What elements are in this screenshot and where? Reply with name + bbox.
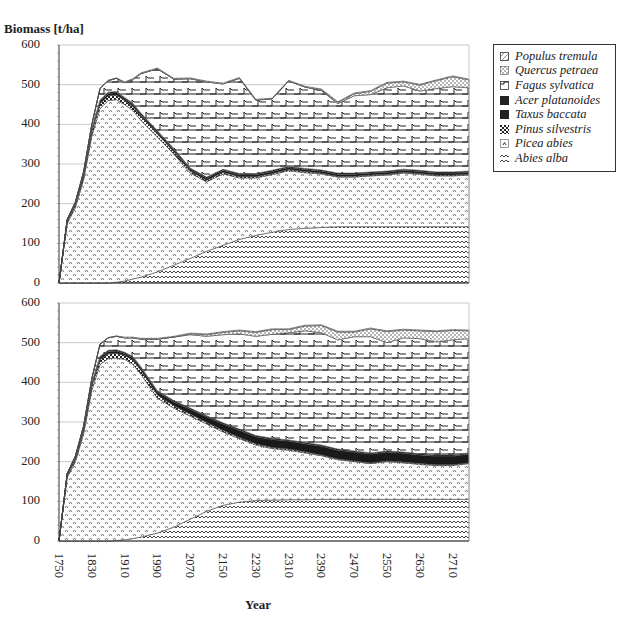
legend: Populus tremula Quercus petraea Fagus sy…: [493, 44, 616, 172]
x-tick-label: 1910: [117, 553, 132, 578]
caret-pattern-icon: [500, 139, 509, 148]
diagonal-pattern-icon: [500, 52, 509, 61]
legend-item-populus: Populus tremula: [500, 49, 611, 64]
y-tick-label: 600: [2, 37, 40, 52]
step-pattern-icon: [500, 81, 509, 90]
x-tick-label: 2630: [412, 553, 427, 578]
y-tick-label: 100: [2, 235, 40, 250]
x-tick-label: 2310: [281, 553, 296, 578]
y-tick-label: 100: [2, 493, 40, 508]
legend-label: Taxus baccata: [515, 107, 586, 122]
solid-square-icon: [500, 110, 509, 119]
legend-label: Acer platanoides: [515, 93, 600, 108]
y-axis-title: Biomass [t/ha]: [4, 21, 84, 37]
x-tick-label: 2230: [248, 553, 263, 578]
y-tick-label: 0: [2, 275, 40, 290]
x-tick-label: 1830: [84, 553, 99, 578]
x-tick-label: 1990: [149, 553, 164, 578]
legend-item-quercus: Quercus petraea: [500, 64, 611, 79]
y-tick-label: 600: [2, 295, 40, 310]
legend-item-pinus: Pinus silvestris: [500, 122, 611, 137]
chart-bottom: [57, 303, 469, 541]
x-axis-title: Year: [245, 597, 271, 613]
wave-pattern-icon: [500, 154, 509, 163]
solid-square-icon: [500, 96, 509, 105]
y-tick-label: 500: [2, 77, 40, 92]
legend-label: Quercus petraea: [515, 63, 598, 78]
legend-label: Pinus silvestris: [515, 122, 591, 137]
legend-label: Fagus sylvatica: [515, 78, 594, 93]
y-tick-label: 200: [2, 454, 40, 469]
x-tick-label: 1750: [51, 553, 66, 578]
y-tick-label: 300: [2, 414, 40, 429]
dotted-pattern-icon: [500, 66, 509, 75]
legend-item-abies: Abies alba: [500, 151, 611, 166]
y-tick-label: 200: [2, 196, 40, 211]
legend-label: Populus tremula: [515, 49, 598, 64]
legend-item-picea: Picea abies: [500, 137, 611, 152]
legend-item-acer: Acer platanoides: [500, 93, 611, 108]
legend-label: Picea abies: [515, 136, 573, 151]
x-tick-label: 2390: [313, 553, 328, 578]
y-tick-label: 400: [2, 116, 40, 131]
x-tick-label: 2550: [379, 553, 394, 578]
x-tick-label: 2070: [182, 553, 197, 578]
y-tick-label: 300: [2, 156, 40, 171]
chart-top: [57, 45, 469, 283]
legend-item-taxus: Taxus baccata: [500, 107, 611, 122]
legend-item-fagus: Fagus sylvatica: [500, 78, 611, 93]
x-tick-label: 2710: [445, 553, 460, 578]
x-tick-label: 2150: [215, 553, 230, 578]
x-tick-label: 2470: [346, 553, 361, 578]
y-tick-label: 500: [2, 335, 40, 350]
y-tick-label: 400: [2, 374, 40, 389]
y-tick-label: 0: [2, 533, 40, 548]
legend-label: Abies alba: [515, 151, 568, 166]
checker-pattern-icon: [500, 125, 509, 134]
